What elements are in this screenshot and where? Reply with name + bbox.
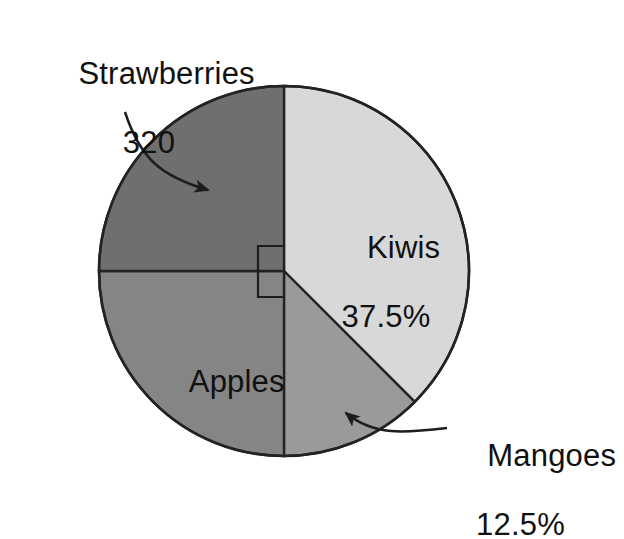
strawberries-callout-label: Strawberries 320 — [24, 22, 274, 230]
apples-slice-label: Apples — [150, 330, 290, 434]
apples-name: Apples — [189, 364, 285, 399]
kiwis-value: 37.5% — [316, 300, 456, 335]
kiwis-name: Kiwis — [367, 230, 440, 265]
mangoes-callout-label: Mangoes 12.5% — [452, 404, 622, 539]
kiwis-slice-label: Kiwis 37.5% — [316, 196, 456, 404]
mangoes-value: 12.5% — [452, 508, 622, 539]
mangoes-name: Mangoes — [487, 438, 616, 473]
strawberries-name: Strawberries — [78, 56, 254, 91]
strawberries-value: 320 — [24, 126, 274, 161]
